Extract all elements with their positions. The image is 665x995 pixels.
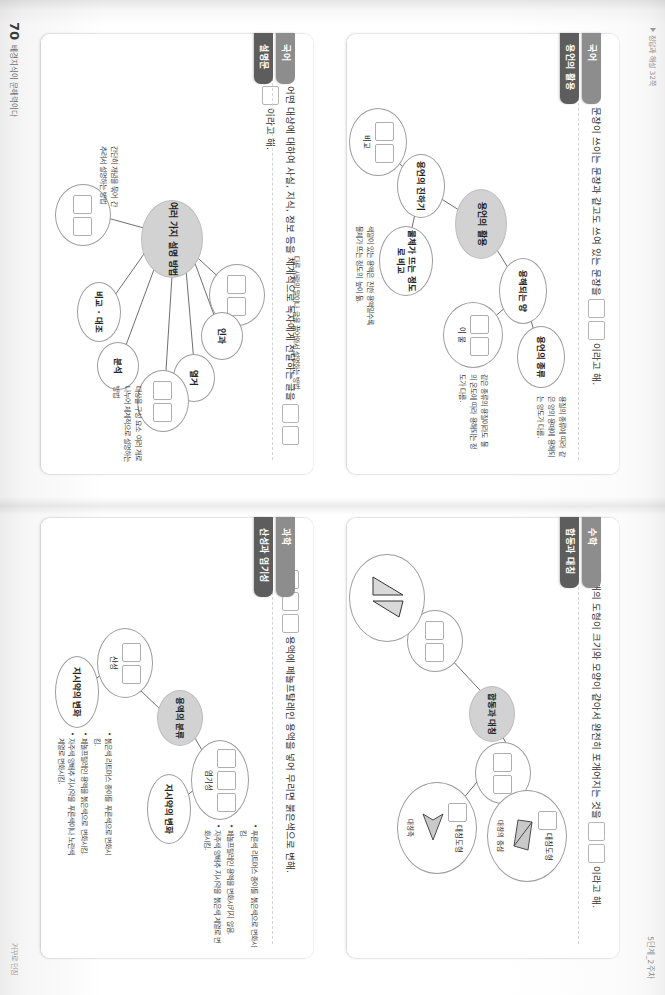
card-science-acid-base: 용액에 페놀프탈레인 용액을 넣어 무리면 붉은색으로 변해. 용액의 분류: [41, 518, 313, 958]
mindmap-node-line-symmetry: 대칭도형 대칭축: [397, 782, 477, 874]
mindmap-node-boxes-color: 비교: [349, 108, 407, 176]
mindmap-node-verb-density: 용언의 진하기: [397, 154, 445, 218]
note-text-1c: 색깔이 있는 용액은 진한 용액일수록 물체가 뜨는 정도의 높이 듦.: [353, 226, 375, 332]
head-text-after-3: 이라고 해.: [589, 866, 604, 908]
point-symmetry-figure-icon: [511, 816, 537, 856]
node-label: 비교 · 대조: [94, 291, 105, 332]
card-subject-badge[interactable]: 수학: [582, 517, 601, 588]
node-label: 분석: [113, 358, 124, 374]
answer-box[interactable]: [217, 793, 236, 812]
answer-box[interactable]: [539, 811, 558, 830]
answer-box[interactable]: [375, 144, 394, 163]
answer-box[interactable]: [494, 775, 513, 794]
mindmap-center-node-2: 여러 가지 설명 방법: [141, 200, 203, 278]
note-bullet: 붉은색 리트머스 종이를 푸른색으로 변화시킴.: [91, 732, 113, 860]
card-topic-tab[interactable]: 산성과 염기성: [254, 517, 273, 597]
answer-box[interactable]: [426, 643, 445, 662]
card-divider: [272, 48, 273, 460]
mindmap-node-indicator-change-base: 지시약의 변화: [147, 774, 191, 844]
card-korean-exposition: 어떤 대상에 대하여 사실, 지식, 정보 등을 체계적으로 독자에게 전달하는…: [41, 34, 313, 474]
card-divider: [578, 48, 579, 460]
node-label: 용언의 종류: [536, 336, 547, 379]
head-text-after-1: 이라고 해.: [589, 343, 604, 385]
answer-box[interactable]: [154, 403, 173, 422]
mindmap-canvas-3: 합동과 대칭: [347, 518, 575, 958]
answer-box[interactable]: [74, 195, 93, 214]
mindmap-center-node-3: 합동과 대칭: [469, 686, 515, 742]
answer-box[interactable]: [470, 337, 489, 356]
note-bullet: 푸른색 리트머스 종이를 붉은색으로 변화시킴.: [237, 824, 259, 948]
note-text-2a: 다른 사람의 말이나 글을 끌어와서 설명하는 방법: [290, 256, 301, 396]
answer-box[interactable]: [217, 749, 236, 768]
note-bullet: 페놀프탈레인 용액을 변화시키지 않음.: [224, 824, 235, 948]
answer-box[interactable]: [122, 643, 141, 662]
mindmap-node-float-compare: 물체가 뜨는 정도로 비교: [379, 226, 433, 296]
card-subject-badge[interactable]: 과학: [276, 517, 295, 597]
head-text-before-1: 쓰는 문장이 쓰이는 문장과 같고도 쓰여 있는 문장을: [589, 86, 604, 296]
answer-box[interactable]: [470, 315, 489, 334]
node-sublabel: 대칭축: [407, 819, 417, 837]
node-label: 용언의 진하기: [416, 161, 427, 212]
answer-box[interactable]: [426, 621, 445, 640]
book-title: 배경지식이 문해력이다: [8, 45, 19, 117]
node-label: 산성: [109, 656, 120, 670]
answer-blank[interactable]: [588, 299, 605, 318]
note-text-2b: 대상을 구성 요소 여러 개로 나누어 체계적으로 설명하는 방법: [110, 386, 143, 464]
answer-blank[interactable]: [282, 404, 299, 423]
answer-blank[interactable]: [282, 614, 299, 633]
answer-box[interactable]: [122, 665, 141, 684]
mindmap-node-indicator-change-acid: 지시약의 변화: [55, 656, 99, 728]
answer-box[interactable]: [228, 275, 247, 294]
card-korean-conjugation: 쓰는 문장이 쓰이는 문장과 같고도 쓰여 있는 문장을 이라고 해.: [347, 34, 619, 474]
node-label: 비교: [362, 135, 373, 149]
answer-box[interactable]: [494, 753, 513, 772]
card-subject-badge[interactable]: 국어: [582, 33, 601, 104]
head-text-before-4: 용액에 페놀프탈레인 용액을 넣어 무리면 붉은색으로 변해.: [283, 636, 298, 873]
answer-box[interactable]: [217, 771, 236, 790]
card-tabs-4: 과학 산성과 염기성: [254, 517, 295, 597]
note-text-2c: 간단히 개념을 묶어 간추려서 설명하는 방법: [97, 146, 119, 210]
card-divider: [578, 532, 579, 944]
header-stage-week: 5단계_2주차: [646, 936, 657, 979]
answer-blank[interactable]: [588, 844, 605, 863]
answer-blank[interactable]: [588, 321, 605, 340]
answer-box-group: [470, 315, 489, 356]
answer-box-group: [375, 122, 394, 163]
node-label: 용액의 분류: [175, 697, 186, 740]
answer-blank[interactable]: [282, 426, 299, 445]
answer-box-group: [217, 749, 236, 812]
head-text-before-3: 두 개의 도형이 크기와 모양이 같아서 완전히 포개어지는 것을: [589, 570, 604, 819]
page-number: 70: [8, 22, 21, 40]
answer-blank[interactable]: [588, 822, 605, 841]
card-topic-tab[interactable]: 합동과 대칭: [560, 517, 579, 588]
mindmap-node-cause-effect: 인과: [201, 312, 243, 360]
card-topic-tab[interactable]: 설명문: [254, 33, 273, 84]
node-sublabel: 대칭의 중심: [497, 820, 507, 852]
card-subject-badge[interactable]: 국어: [276, 33, 295, 84]
answer-box-group: [494, 753, 513, 794]
node-label: 염기성: [204, 770, 215, 791]
answer-box[interactable]: [228, 297, 247, 316]
congruent-triangles-icon: [367, 571, 407, 625]
mindmap-node-verb-type: 용언의 종류: [517, 326, 565, 388]
card-head-4: 용액에 페놀프탈레인 용액을 넣어 무리면 붉은색으로 변해.: [282, 570, 299, 944]
answer-box[interactable]: [449, 803, 468, 822]
node-label: 인과: [217, 328, 228, 344]
node-label: 용언의 활용: [475, 202, 486, 245]
note-bullet: 자주색 양배추 지시약을 푸른색이나 노란색 계열로 변화시킴.: [55, 732, 77, 860]
node-label: 물체가 뜨는 정도로 비교: [395, 227, 416, 295]
scanned-workbook-page: 정답과 해설 32쪽 5단계_2주차 쓰는 문장이 쓰이는 문장과 같고도 쓰여…: [0, 0, 665, 995]
answer-box[interactable]: [74, 217, 93, 236]
answer-box-group: [74, 195, 93, 236]
screenshot-frame: 정답과 해설 32쪽 5단계_2주차 쓰는 문장이 쓰이는 문장과 같고도 쓰여…: [0, 0, 665, 995]
node-label: 여러 가지 설명 방법: [166, 202, 177, 275]
answer-box[interactable]: [375, 122, 394, 141]
answer-box[interactable]: [154, 381, 173, 400]
note-bullet: 페놀프탈레인 용액을 붉은색으로 변화시킴.: [78, 732, 89, 860]
mindmap-node-compare-contrast: 비교 · 대조: [77, 282, 121, 342]
mindmap-canvas-1: 용언의 활용 용해되는 양 용언의 종류 용언의 진하기 물체가 뜨는 정도로 …: [347, 34, 575, 474]
mindmap-node-acid-boxes: 산성: [97, 628, 153, 698]
card-topic-tab[interactable]: 용언의 활용: [560, 33, 579, 104]
node-label: 열거: [189, 370, 200, 386]
note-text-1a: 용질의 종류에 따라 같은 양의 용매에 용해되는 양도가 다름.: [534, 396, 567, 458]
